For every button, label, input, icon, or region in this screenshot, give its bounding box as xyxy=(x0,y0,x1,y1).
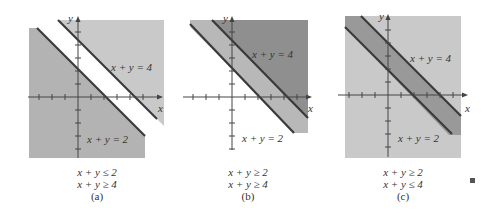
end-of-proof-mark xyxy=(470,178,475,183)
inequality-1: x + y ≥ 2 xyxy=(188,166,308,178)
inequality-2: x + y ≥ 4 xyxy=(37,178,157,190)
inequality-2: x + y ≥ 4 xyxy=(188,178,308,190)
y-axis-label: y xyxy=(67,12,73,24)
panel-label: (b) xyxy=(188,190,308,202)
panel-label: (a) xyxy=(37,190,157,202)
panel-b-caption: x + y ≥ 2 x + y ≥ 4 (b) xyxy=(188,166,308,202)
x-axis-arrow xyxy=(306,95,312,100)
inequality-2: x + y ≤ 4 xyxy=(343,178,463,190)
label-line-4: x + y = 4 xyxy=(110,61,153,73)
panel-c-graph: y x x + y = 4 x + y = 2 xyxy=(338,10,470,158)
panel-a-graph: y x x + y = 4 x + y = 2 xyxy=(28,12,164,158)
panel-c-caption: x + y ≥ 2 x + y ≤ 4 (c) xyxy=(343,166,463,202)
y-axis-arrow xyxy=(76,16,81,22)
x-axis-label: x xyxy=(307,102,313,114)
label-line-2: x + y = 2 xyxy=(397,132,440,144)
y-axis-label: y xyxy=(378,10,384,22)
label-line-4: x + y = 4 xyxy=(409,52,452,64)
panel-b-graph: y x x + y = 4 x + y = 2 xyxy=(183,12,313,150)
y-axis-arrow xyxy=(230,16,235,22)
x-axis-label: x xyxy=(464,102,470,114)
label-line-2: x + y = 2 xyxy=(241,132,284,144)
label-line-2: x + y = 2 xyxy=(86,133,129,145)
y-axis-label: y xyxy=(222,12,228,24)
inequality-1: x + y ≥ 2 xyxy=(343,166,463,178)
panel-a-caption: x + y ≤ 2 x + y ≥ 4 (a) xyxy=(37,166,157,202)
label-line-4: x + y = 4 xyxy=(251,48,294,60)
x-axis-label: x xyxy=(157,102,163,114)
panel-label: (c) xyxy=(343,190,463,202)
x-axis-arrow xyxy=(462,93,468,98)
inequality-1: x + y ≤ 2 xyxy=(37,166,157,178)
